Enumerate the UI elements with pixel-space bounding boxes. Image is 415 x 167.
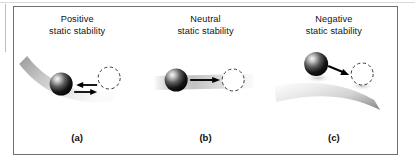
panel-title-negative: Negative static stability (270, 14, 398, 37)
panel-negative-static-stability: Negative static stability (270, 6, 398, 155)
ball-at-equilibrium (50, 73, 73, 96)
illustration-positive-concave-surface (13, 36, 141, 118)
panel-container: Positive static stability (13, 6, 398, 155)
panel-caption-c: (c) (270, 132, 398, 143)
displaced-position-dashed-circle (98, 67, 120, 89)
svg-neutral-stability (141, 36, 269, 118)
panel-title-neutral: Neutral static stability (141, 14, 269, 37)
page-top-rule (0, 2, 415, 3)
displaced-position-dashed-circle (351, 63, 373, 85)
figure-root: Positive static stability (0, 0, 415, 167)
panel-caption-b: (b) (141, 132, 269, 143)
svg-negative-stability (270, 36, 398, 118)
displaced-position-dashed-circle (222, 69, 244, 91)
panel-positive-static-stability: Positive static stability (13, 6, 141, 155)
divergence-arrow-down-right (328, 66, 349, 75)
page-gutter-rule (5, 4, 6, 52)
restoring-arrow-left (76, 82, 97, 88)
ball-at-equilibrium (304, 52, 328, 76)
svg-positive-stability (13, 36, 141, 118)
panel-caption-a: (a) (13, 132, 141, 143)
illustration-negative-convex-surface (270, 36, 398, 118)
panel-title-positive: Positive static stability (13, 14, 141, 37)
illustration-neutral-flat-surface (141, 36, 269, 118)
panel-neutral-static-stability: Neutral static stability (141, 6, 269, 155)
ball-at-equilibrium (165, 69, 188, 92)
